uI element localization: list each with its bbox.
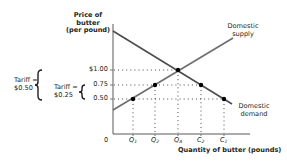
x-axis-label: Quantity of butter (pounds)	[178, 147, 281, 155]
origin-label: 0	[104, 137, 108, 145]
tariff-chart: Price of butter (per pound) $1.00 0.75 0…	[0, 0, 287, 167]
domestic-demand-curve	[113, 31, 232, 104]
x-tick-c2: C2	[197, 137, 204, 146]
domestic-demand-label: Domestic demand	[234, 103, 274, 118]
y-tick-0-75: 0.75	[78, 81, 108, 89]
x-tick-q1: Q1	[129, 137, 137, 146]
data-points	[131, 68, 226, 101]
x-tick-qa: QA	[174, 137, 182, 146]
horizontal-guides	[114, 70, 224, 99]
x-tick-q2: Q2	[151, 137, 159, 146]
tariff-050-label: Tariff = $0.50	[14, 77, 38, 92]
vertical-guides	[133, 71, 224, 133]
y-tick-0-50: 0.50	[78, 95, 108, 103]
tariff-025-label: Tariff = $0.25	[54, 84, 78, 99]
y-axis-label: Price of butter (per pound)	[64, 12, 112, 35]
domestic-supply-label: Domestic supply	[223, 23, 263, 38]
x-tick-c1: C1	[220, 137, 227, 146]
y-tick-1-00: $1.00	[78, 66, 108, 74]
